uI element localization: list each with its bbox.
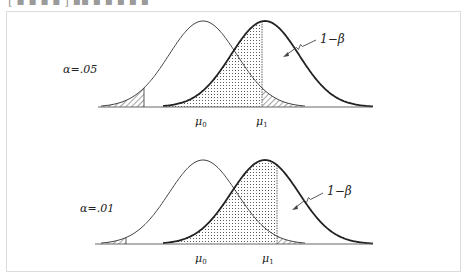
mu1-label: μ1 bbox=[256, 115, 268, 129]
panel-alpha-01: α=.01 1−β μ0 μ1 bbox=[80, 160, 373, 266]
power-pointer-arrow bbox=[292, 193, 323, 210]
mu1-label: μ1 bbox=[262, 252, 274, 266]
mu0-label: μ0 bbox=[195, 252, 207, 266]
rejection-region-left bbox=[101, 88, 144, 107]
mu0-label: μ0 bbox=[195, 115, 207, 129]
power-region bbox=[163, 160, 277, 244]
power-region bbox=[163, 21, 262, 107]
power-label: 1−β bbox=[320, 32, 345, 46]
power-diagram: α=.05 1−β μ0 μ1 α=.01 1−β μ0 μ1 bbox=[0, 0, 470, 278]
power-label: 1−β bbox=[327, 184, 352, 198]
rejection-region-right bbox=[262, 88, 305, 107]
alpha-label: α=.01 bbox=[80, 202, 114, 215]
alpha-label: α=.05 bbox=[63, 63, 97, 76]
panel-alpha-05: α=.05 1−β μ0 μ1 bbox=[63, 21, 373, 129]
